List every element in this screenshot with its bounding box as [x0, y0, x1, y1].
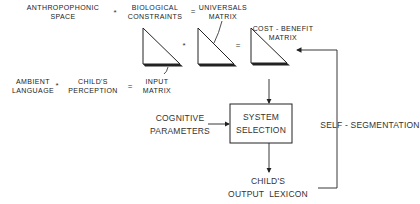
- universals-matrix-triangle: [198, 28, 237, 67]
- label-line: SELECTION: [236, 124, 286, 137]
- input-matrix-triangle: [143, 28, 183, 67]
- label-line: MATRIX: [143, 86, 171, 95]
- label-line: SYSTEM: [236, 111, 286, 124]
- label-line: MATRIX: [253, 33, 314, 42]
- input-equals-operator: =: [128, 82, 133, 91]
- label-line: UNIVERSALS: [199, 3, 247, 12]
- label-line: COGNITIVE: [150, 112, 210, 125]
- label-line: AMBIENT: [12, 77, 54, 86]
- matrix-multiply-operator: *: [182, 41, 185, 50]
- input-matrix-pointer: [164, 67, 168, 74]
- label-line: PERCEPTION: [68, 86, 118, 95]
- label-line: CHILD'S: [68, 77, 118, 86]
- label-line: ANTHROPOPHONIC: [27, 3, 100, 12]
- biological-constraints-label: BIOLOGICAL CONSTRAINTS: [128, 3, 183, 21]
- label-line: BIOLOGICAL: [128, 3, 183, 12]
- label-line: CONSTRAINTS: [128, 12, 183, 21]
- label-line: CHILD'S: [228, 175, 308, 188]
- label-line: LANGUAGE: [12, 86, 54, 95]
- self-segmentation-label: SELF - SEGMENTATION: [320, 119, 419, 132]
- cognitive-parameters-label: COGNITIVE PARAMETERS: [150, 112, 210, 137]
- multiply-operator: *: [113, 8, 116, 17]
- input-multiply-operator: *: [55, 81, 58, 90]
- universals-pointer: [214, 21, 222, 43]
- system-selection-label: SYSTEM SELECTION: [236, 111, 286, 136]
- label-line: MATRIX: [199, 12, 247, 21]
- ambient-language-label: AMBIENT LANGUAGE: [12, 77, 54, 95]
- label-line: SPACE: [27, 12, 100, 21]
- equals-operator: =: [191, 7, 196, 16]
- universals-matrix-label: UNIVERSALS MATRIX: [199, 3, 247, 21]
- childs-output-lexicon-label: CHILD'S OUTPUT LEXICON: [228, 175, 308, 200]
- matrix-equals-operator: =: [236, 41, 241, 50]
- label-line: INPUT: [143, 77, 171, 86]
- childs-perception-label: CHILD'S PERCEPTION: [68, 77, 118, 95]
- label-line: PARAMETERS: [150, 125, 210, 138]
- anthropophonic-space-label: ANTHROPOPHONIC SPACE: [27, 3, 100, 21]
- cost-benefit-matrix-label: COST - BENEFIT MATRIX: [253, 24, 314, 42]
- input-matrix-label: INPUT MATRIX: [143, 77, 171, 95]
- label-line: COST - BENEFIT: [253, 24, 314, 33]
- label-line: OUTPUT LEXICON: [228, 188, 308, 201]
